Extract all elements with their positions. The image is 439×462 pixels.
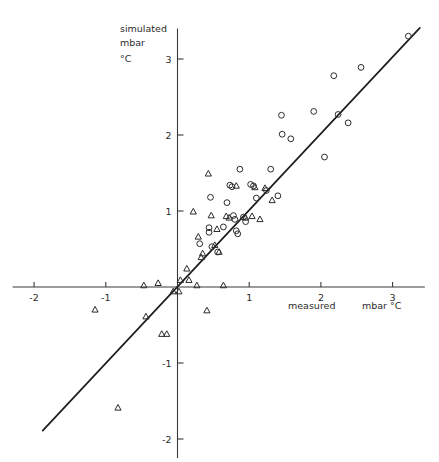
data-point-circle	[331, 73, 337, 79]
data-point-triangle	[177, 277, 183, 283]
y-tick-label: -1	[162, 358, 171, 369]
data-point-triangle	[92, 306, 98, 312]
y-axis-title-group: simulated mbar °C	[120, 23, 167, 64]
data-point-triangle	[200, 250, 206, 256]
data-point-triangle	[214, 226, 220, 232]
data-point-triangle	[143, 313, 149, 319]
y-axis-title-line-3: °C	[120, 53, 132, 64]
x-tick-label: -1	[101, 292, 110, 303]
data-point-circle	[268, 166, 274, 172]
data-point-circle	[288, 136, 294, 142]
y-tick-label: 3	[165, 54, 171, 65]
data-point-circle	[279, 112, 285, 118]
data-point-triangle	[176, 288, 182, 294]
reference-line-group	[43, 28, 420, 431]
data-point-triangle	[269, 197, 275, 203]
one-to-one-fit-line	[43, 28, 420, 431]
y-axis-title-line-1: simulated	[120, 23, 167, 34]
plot-canvas: -2-1123 321-1-2 simulated mbar °C measur…	[0, 0, 439, 462]
data-point-circle	[322, 154, 328, 160]
data-point-triangle	[195, 233, 201, 239]
x-axis-title-units: mbar °C	[362, 300, 402, 311]
data-point-circle	[224, 200, 230, 206]
data-point-triangle	[155, 280, 161, 286]
data-point-circle	[405, 33, 411, 39]
data-point-circle	[232, 216, 238, 222]
data-point-circle	[345, 120, 351, 126]
data-point-triangle	[115, 404, 121, 410]
data-point-circle	[358, 64, 364, 70]
data-point-triangle	[190, 208, 196, 214]
data-point-circle	[220, 224, 226, 230]
data-point-circle	[311, 109, 317, 115]
y-axis-title-line-2: mbar	[120, 37, 145, 48]
scatter-plot-figure: -2-1123 321-1-2 simulated mbar °C measur…	[0, 0, 439, 462]
data-point-triangle	[249, 213, 255, 219]
data-point-circle	[208, 194, 214, 200]
data-point-triangle	[198, 254, 204, 260]
data-point-triangle	[205, 170, 211, 176]
y-axis-ticks: 321-1-2	[162, 54, 183, 445]
x-axis-title-group: measured mbar °C	[288, 300, 402, 311]
y-tick-label: 1	[165, 206, 171, 217]
data-point-triangle	[208, 212, 214, 218]
x-axis-title-measured: measured	[288, 300, 335, 311]
data-point-circle	[279, 131, 285, 137]
data-point-triangle	[184, 265, 190, 271]
data-point-triangle	[257, 216, 263, 222]
y-tick-label: -2	[162, 434, 171, 445]
data-point-triangle	[204, 307, 210, 313]
y-tick-label: 2	[165, 130, 171, 141]
data-point-circle	[197, 241, 203, 247]
data-point-triangle	[164, 331, 170, 337]
data-point-circle	[275, 193, 281, 199]
x-tick-label: -2	[29, 292, 38, 303]
x-tick-label: 1	[246, 292, 252, 303]
data-series-circles	[197, 33, 411, 255]
x-axis-ticks: -2-1123	[29, 282, 395, 303]
data-point-circle	[237, 166, 243, 172]
data-point-circle	[253, 195, 259, 201]
data-series-triangles	[92, 170, 275, 410]
